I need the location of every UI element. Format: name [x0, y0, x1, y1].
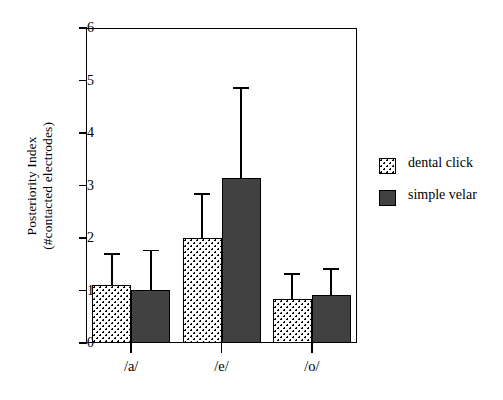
y-axis-tick-mark [79, 342, 87, 344]
y-axis-tick-label: 2 [62, 230, 94, 246]
y-axis-tick-label: 0 [62, 335, 94, 351]
x-axis-tick-label: /a/ [101, 358, 161, 375]
solid-swatch-icon [379, 190, 396, 206]
error-bar-stem [330, 268, 332, 295]
error-bar-stem [150, 250, 152, 290]
bar[interactable] [131, 290, 170, 343]
bar[interactable] [273, 299, 312, 343]
error-bar-stem [111, 253, 113, 285]
y-axis-tick-mark [79, 290, 87, 292]
y-axis-tick-label: 6 [62, 20, 94, 36]
bar[interactable] [222, 178, 261, 343]
x-axis-tick-mark [311, 343, 313, 353]
x-axis-tick-mark [221, 343, 223, 353]
y-axis-tick-label: 1 [62, 283, 94, 299]
dotted-swatch-icon [379, 158, 396, 174]
bar[interactable] [312, 295, 351, 343]
error-bar-cap [104, 253, 120, 255]
y-axis-tick-label: 4 [62, 125, 94, 141]
y-axis-tick-mark [79, 132, 87, 134]
y-axis-tick-mark [79, 237, 87, 239]
chart-legend: dental click simple velar [379, 152, 503, 216]
legend-item-simple-velar[interactable]: simple velar [379, 184, 503, 216]
bar-chart-figure: Posteriority Index (#contacted electrode… [0, 0, 503, 400]
y-axis-title: Posteriority Index (#contacted electrode… [14, 0, 66, 372]
error-bar-cap [233, 87, 249, 89]
x-axis-tick-label: /o/ [282, 358, 342, 375]
y-axis-tick-mark [79, 185, 87, 187]
error-bar-cap [194, 193, 210, 195]
bar[interactable] [92, 285, 131, 343]
x-axis-tick-mark [130, 343, 132, 353]
error-bar-stem [201, 193, 203, 238]
y-axis-tick-label: 3 [62, 178, 94, 194]
error-bar-cap [323, 268, 339, 270]
legend-label-dental-click: dental click [408, 155, 473, 171]
error-bar-cap [143, 250, 159, 252]
error-bar-stem [240, 87, 242, 178]
y-axis-tick-mark [79, 27, 87, 29]
y-axis-tick-mark [79, 80, 87, 82]
error-bar-stem [291, 273, 293, 299]
bar[interactable] [183, 238, 222, 343]
x-axis-tick-label: /e/ [192, 358, 252, 375]
legend-label-simple-velar: simple velar [408, 187, 477, 203]
error-bar-cap [284, 273, 300, 275]
y-axis-tick-label: 5 [62, 73, 94, 89]
y-axis-title-line2: (#contacted electrodes) [40, 122, 56, 250]
y-axis-title-line1: Posteriority Index [24, 122, 40, 250]
legend-item-dental-click[interactable]: dental click [379, 152, 503, 184]
